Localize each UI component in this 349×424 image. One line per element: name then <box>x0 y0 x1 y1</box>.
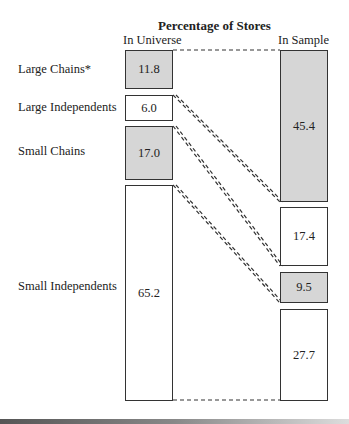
universe-large-independents-box: 6.0 <box>125 95 173 121</box>
sample-small-chains-box: 9.5 <box>280 272 328 303</box>
sample-small-independents-box: 27.7 <box>280 309 328 401</box>
sample-large-chains-box: 45.4 <box>280 50 328 202</box>
bottom-divider <box>0 419 349 424</box>
sample-large-independents-box: 17.4 <box>280 207 328 266</box>
universe-large-chains-box: 11.8 <box>125 50 173 89</box>
universe-small-chains-box: 17.0 <box>125 126 173 180</box>
universe-small-independents-box: 65.2 <box>125 185 173 401</box>
